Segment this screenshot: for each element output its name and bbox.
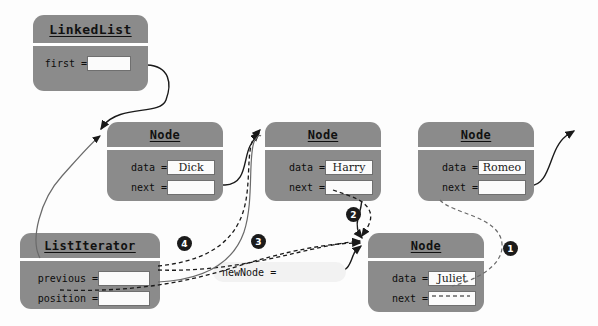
field-value-next[interactable] <box>428 291 476 306</box>
linkedlist-object: LinkedList first = <box>33 15 148 91</box>
field-label-next: next = <box>265 182 325 193</box>
field-label-previous: previous = <box>20 273 98 284</box>
node-fields-dick: data = Dick next = <box>107 150 223 204</box>
field-value-previous[interactable] <box>98 271 150 286</box>
node-title-dick: Node <box>107 122 223 147</box>
field-label-next: next = <box>368 293 428 304</box>
field-row-data: data = Harry <box>265 158 381 176</box>
node-object-juliet: Node data = Juliet next = <box>368 233 484 312</box>
step-badge-4: 4 <box>177 236 192 251</box>
step-badge-2: 2 <box>346 207 361 222</box>
listiterator-object: ListIterator previous = position = <box>20 233 160 309</box>
field-value-next[interactable] <box>478 180 526 195</box>
field-label-data: data = <box>418 162 478 173</box>
field-row-data: data = Juliet <box>368 269 484 287</box>
field-value-next[interactable] <box>325 180 373 195</box>
field-value-data-text: Dick <box>178 162 203 173</box>
field-value-data[interactable]: Juliet <box>428 271 476 286</box>
node-object-harry: Node data = Harry next = <box>265 122 381 201</box>
node-object-romeo: Node data = Romeo next = <box>418 122 534 201</box>
field-row-next: next = <box>368 289 484 307</box>
node-fields-romeo: data = Romeo next = <box>418 150 534 204</box>
field-value-first[interactable] <box>87 56 131 71</box>
node-object-dick: Node data = Dick next = <box>107 122 223 201</box>
field-row-next: next = <box>107 178 223 196</box>
linked-list-diagram: LinkedList first = Node data = Dick next… <box>0 0 598 326</box>
field-value-data-text: Romeo <box>483 162 521 173</box>
field-label-data: data = <box>107 162 167 173</box>
field-value-data-text: Harry <box>333 162 366 173</box>
linkedlist-fields: first = <box>33 46 148 80</box>
linkedlist-title: LinkedList <box>33 15 148 43</box>
field-row-next: next = <box>265 178 381 196</box>
node-title-harry: Node <box>265 122 381 147</box>
node-title-juliet: Node <box>368 233 484 258</box>
field-row-position: position = <box>20 289 160 307</box>
listiterator-title: ListIterator <box>20 233 160 258</box>
step-badge-3: 3 <box>251 234 266 249</box>
node-fields-harry: data = Harry next = <box>265 150 381 204</box>
field-row-next: next = <box>418 178 534 196</box>
field-value-data-text: Juliet <box>437 273 466 284</box>
field-row-first: first = <box>33 54 148 72</box>
local-variable-newnode-label: newNode = <box>213 267 276 278</box>
local-variable-newnode: newNode = <box>213 262 346 282</box>
field-value-data[interactable]: Harry <box>325 160 373 175</box>
field-value-data[interactable]: Romeo <box>478 160 526 175</box>
field-label-data: data = <box>265 162 325 173</box>
field-label-first: first = <box>33 58 87 69</box>
field-value-position[interactable] <box>98 291 150 306</box>
field-label-position: position = <box>20 293 98 304</box>
field-row-data: data = Romeo <box>418 158 534 176</box>
field-label-data: data = <box>368 273 428 284</box>
node-fields-juliet: data = Juliet next = <box>368 261 484 315</box>
field-label-next: next = <box>418 182 478 193</box>
field-row-previous: previous = <box>20 269 160 287</box>
step-badge-1: 1 <box>503 241 518 256</box>
field-value-next[interactable] <box>167 180 215 195</box>
field-row-data: data = Dick <box>107 158 223 176</box>
field-value-data[interactable]: Dick <box>167 160 215 175</box>
node-title-romeo: Node <box>418 122 534 147</box>
listiterator-fields: previous = position = <box>20 261 160 315</box>
field-label-next: next = <box>107 182 167 193</box>
